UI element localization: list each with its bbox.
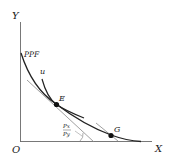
angle-arc bbox=[80, 133, 83, 141]
price-line-at-e bbox=[27, 80, 94, 142]
ppf-diagram: Y X O PPF u E G Px Py bbox=[0, 0, 175, 165]
y-axis-label: Y bbox=[12, 10, 20, 21]
g-label: G bbox=[114, 125, 121, 134]
u-label: u bbox=[40, 67, 45, 76]
price-ratio-numerator: Px bbox=[62, 123, 71, 129]
ppf-curve bbox=[21, 53, 141, 142]
e-label: E bbox=[58, 94, 65, 103]
ppf-label: PPF bbox=[23, 50, 40, 59]
x-axis-label: X bbox=[154, 143, 163, 154]
origin-label: O bbox=[12, 144, 20, 155]
price-ratio-denominator: Py bbox=[62, 131, 71, 138]
label-leader bbox=[75, 131, 82, 136]
point-g bbox=[108, 133, 113, 138]
